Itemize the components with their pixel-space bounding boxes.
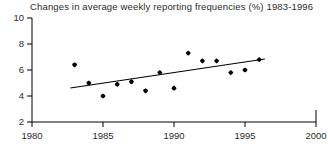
y-axis-labels: 10 8 6 4 2 bbox=[13, 12, 24, 127]
chart-axes bbox=[32, 18, 316, 122]
y-tick-label-2: 2 bbox=[19, 116, 24, 127]
data-point bbox=[171, 86, 176, 91]
data-point bbox=[228, 70, 233, 75]
data-point bbox=[143, 88, 148, 93]
x-tick-label-1995: 1995 bbox=[234, 130, 255, 141]
x-tick-label-2000: 2000 bbox=[305, 130, 326, 141]
y-axis-ticks bbox=[27, 18, 32, 122]
chart-container: Changes in average weekly reporting freq… bbox=[0, 0, 328, 147]
data-point bbox=[257, 57, 262, 62]
data-point bbox=[186, 51, 191, 56]
data-point bbox=[242, 67, 247, 72]
x-axis-ticks bbox=[32, 122, 316, 127]
x-tick-label-1990: 1990 bbox=[163, 130, 184, 141]
x-axis-labels: 1980 1985 1990 1995 2000 bbox=[21, 130, 326, 141]
data-point bbox=[72, 62, 77, 67]
y-tick-label-6: 6 bbox=[19, 64, 24, 75]
chart-canvas: 10 8 6 4 2 1980 1985 1990 1995 2000 bbox=[0, 0, 328, 147]
data-point-series bbox=[72, 51, 262, 99]
y-tick-label-10: 10 bbox=[13, 12, 24, 23]
trend-line bbox=[70, 59, 265, 88]
data-point bbox=[129, 79, 134, 84]
data-point bbox=[200, 58, 205, 63]
data-point bbox=[100, 93, 105, 98]
x-tick-label-1985: 1985 bbox=[92, 130, 113, 141]
y-tick-label-8: 8 bbox=[19, 38, 24, 49]
y-tick-label-4: 4 bbox=[19, 90, 24, 101]
trend-line-group bbox=[70, 59, 265, 88]
data-point bbox=[214, 58, 219, 63]
x-tick-label-1980: 1980 bbox=[21, 130, 42, 141]
data-point bbox=[115, 82, 120, 87]
